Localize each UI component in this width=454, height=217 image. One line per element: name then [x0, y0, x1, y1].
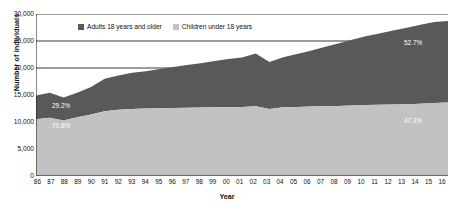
x-tick-96: 96	[166, 178, 178, 190]
x-tick-94: 94	[139, 178, 151, 190]
x-axis-title: Year	[0, 192, 454, 201]
x-tick-08: 08	[328, 178, 340, 190]
legend-item-adults[interactable]: Adults 18 years and older	[78, 23, 162, 30]
x-tick-89: 89	[72, 178, 84, 190]
x-tick-11: 11	[369, 178, 381, 190]
x-tick-07: 07	[315, 178, 327, 190]
legend-swatch-icon	[78, 24, 84, 30]
x-tick-88: 88	[58, 178, 70, 190]
y-tick-25000: 25,000	[0, 38, 34, 45]
x-tick-04: 04	[274, 178, 286, 190]
x-tick-10: 10	[355, 178, 367, 190]
area-children	[36, 103, 448, 176]
annotation-children-pct-left: 70.8%	[52, 122, 70, 129]
x-tick-93: 93	[126, 178, 138, 190]
chart-legend: Adults 18 years and olderChildren under …	[76, 19, 256, 34]
annotation-adults-pct-right: 52.7%	[404, 39, 422, 46]
annotation-children-pct-right: 47.3%	[404, 117, 422, 124]
x-tick-91: 91	[99, 178, 111, 190]
y-tick-5000: 5,000	[0, 146, 34, 153]
legend-label: Children under 18 years	[182, 23, 252, 30]
y-tick-30000: 30,000	[0, 11, 34, 18]
x-tick-12: 12	[382, 178, 394, 190]
x-axis-tick-labels: 8687888990919293949596979899000102030405…	[36, 178, 448, 190]
x-tick-09: 09	[342, 178, 354, 190]
x-tick-99: 99	[207, 178, 219, 190]
y-tick-15000: 15,000	[0, 92, 34, 99]
y-axis-tick-labels: 05,00010,00015,00020,00025,00030,000	[0, 0, 34, 217]
x-tick-92: 92	[112, 178, 124, 190]
stacked-area-svg	[36, 14, 448, 176]
y-tick-10000: 10,000	[0, 119, 34, 126]
y-tick-0: 0	[0, 173, 34, 180]
x-tick-98: 98	[193, 178, 205, 190]
x-tick-97: 97	[180, 178, 192, 190]
legend-swatch-icon	[173, 24, 179, 30]
x-tick-95: 95	[153, 178, 165, 190]
x-tick-02: 02	[247, 178, 259, 190]
y-tick-20000: 20,000	[0, 65, 34, 72]
x-tick-15: 15	[422, 178, 434, 190]
x-tick-16: 16	[436, 178, 448, 190]
x-tick-01: 01	[234, 178, 246, 190]
x-tick-05: 05	[288, 178, 300, 190]
x-tick-87: 87	[45, 178, 57, 190]
x-tick-90: 90	[85, 178, 97, 190]
plot-area	[36, 14, 448, 176]
x-tick-03: 03	[261, 178, 273, 190]
x-tick-06: 06	[301, 178, 313, 190]
x-tick-86: 86	[31, 178, 43, 190]
annotation-adults-pct-left: 29.2%	[52, 102, 70, 109]
legend-item-children[interactable]: Children under 18 years	[173, 23, 252, 30]
x-tick-14: 14	[409, 178, 421, 190]
chart-figure: Number of individuals 05,00010,00015,000…	[0, 0, 454, 217]
x-tick-13: 13	[395, 178, 407, 190]
x-tick-00: 00	[220, 178, 232, 190]
legend-label: Adults 18 years and older	[87, 23, 162, 30]
